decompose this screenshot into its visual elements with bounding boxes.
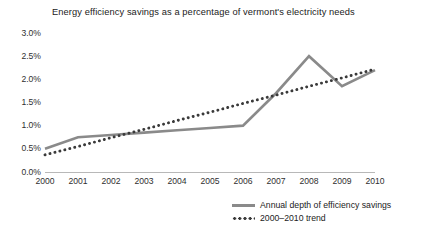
legend-item[interactable]: 2000–2010 trend xyxy=(232,212,432,225)
chart-container: Energy efficiency savings as a percentag… xyxy=(0,0,434,241)
legend-solid-line-icon xyxy=(232,200,255,211)
x-axis-tick-label: 2010 xyxy=(355,176,395,186)
chart-legend: Annual depth of efficiency savings2000–2… xyxy=(232,199,432,225)
legend-item-label: Annual depth of efficiency savings xyxy=(260,200,391,211)
legend-dotted-line-icon xyxy=(232,213,255,224)
trend-line-series xyxy=(45,69,375,155)
x-axis-labels: 2000200120022003200420052006200720082009… xyxy=(45,176,375,190)
legend-item[interactable]: Annual depth of efficiency savings xyxy=(232,199,432,212)
annual-savings-series xyxy=(45,56,375,149)
legend-item-label: 2000–2010 trend xyxy=(260,213,326,224)
